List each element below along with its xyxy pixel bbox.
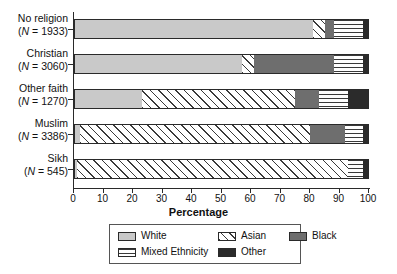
category-label-count: (N = 3060): [18, 60, 68, 73]
bar-segment-asian: [142, 89, 295, 109]
bar-segment-other: [363, 124, 369, 144]
x-axis-tick-label: 70: [274, 193, 285, 205]
x-axis-tick-label: 10: [97, 193, 108, 205]
category-label-name: No religion: [18, 12, 68, 25]
bar-segment-white: [74, 54, 242, 74]
legend-swatch-mixed: [118, 248, 136, 257]
category-label-name: Christian: [18, 47, 68, 60]
x-axis-title: Percentage: [0, 206, 397, 218]
legend-label: Asian: [241, 230, 266, 242]
bar-segment-mixed: [319, 89, 349, 109]
x-axis-tick-label: 90: [333, 193, 344, 205]
bar-segment-other: [348, 89, 369, 109]
x-axis-tick-label: 40: [185, 193, 196, 205]
bar-segment-black: [254, 54, 334, 74]
category-label-name: Muslim: [18, 117, 68, 130]
x-axis-tick-label: 80: [303, 193, 314, 205]
x-axis-tick-label: 30: [156, 193, 167, 205]
bar-segment-asian: [313, 19, 325, 39]
category-axis-labels: No religion(N = 1933)Christian(N = 3060)…: [0, 12, 70, 187]
bar-segment-mixed: [348, 159, 363, 179]
x-axis-line: [73, 188, 370, 189]
bar-segment-black: [295, 89, 319, 109]
bar-segment-white: [74, 19, 313, 39]
legend-label: Other: [241, 246, 266, 258]
legend-item-mixed: Mixed Ethnicity: [118, 246, 208, 258]
bar-segment-black: [325, 19, 334, 39]
category-label: Muslim(N = 3386): [18, 117, 68, 142]
category-label: Sikh(N = 545): [24, 152, 68, 177]
y-axis-tick: [68, 169, 73, 170]
category-label: Other faith(N = 1270): [18, 82, 68, 107]
bar-row: [74, 124, 369, 144]
y-axis-tick: [68, 99, 73, 100]
category-label: No religion(N = 1933): [18, 12, 68, 37]
bar-row: [74, 159, 369, 179]
category-label-count: (N = 3386): [18, 130, 68, 143]
bar-segment-other: [363, 159, 369, 179]
x-axis-tick-label: 0: [70, 193, 76, 205]
category-label-name: Sikh: [24, 152, 68, 165]
category-label-name: Other faith: [18, 82, 68, 95]
category-label-count: (N = 545): [24, 165, 68, 178]
legend-item-black: Black: [289, 230, 336, 242]
bar-row: [74, 89, 369, 109]
bar-segment-asian: [242, 54, 254, 74]
bar-segment-black: [310, 124, 345, 144]
bar-row: [74, 54, 369, 74]
bar-segment-mixed: [334, 54, 364, 74]
legend-item-asian: Asian: [218, 230, 266, 242]
legend-swatch-black: [289, 232, 307, 241]
bar-segment-asian: [77, 159, 348, 179]
legend-label: Mixed Ethnicity: [141, 246, 208, 258]
x-axis-tick-label: 20: [126, 193, 137, 205]
y-axis-tick: [68, 64, 73, 65]
x-axis-tick-label: 100: [360, 193, 377, 205]
bar-segment-asian: [80, 124, 310, 144]
y-axis-tick: [68, 134, 73, 135]
legend-item-other: Other: [218, 246, 266, 258]
bar-segment-mixed: [345, 124, 363, 144]
legend-label: Black: [312, 230, 336, 242]
bar-segment-mixed: [334, 19, 364, 39]
stacked-bar-chart: No religion(N = 1933)Christian(N = 3060)…: [0, 0, 397, 274]
plot-area: [74, 12, 369, 187]
legend-swatch-other: [218, 248, 236, 257]
x-axis-tick-label: 60: [244, 193, 255, 205]
legend-label: White: [141, 230, 167, 242]
bar-segment-white: [74, 89, 142, 109]
category-label: Christian(N = 3060): [18, 47, 68, 72]
legend-item-white: White: [118, 230, 167, 242]
y-axis-tick: [68, 29, 73, 30]
x-axis-tick-label: 50: [215, 193, 226, 205]
category-label-count: (N = 1270): [18, 95, 68, 108]
legend-swatch-white: [118, 232, 136, 241]
category-label-count: (N = 1933): [18, 25, 68, 38]
y-axis-line: [73, 12, 74, 188]
bar-row: [74, 19, 369, 39]
bar-segment-other: [363, 54, 369, 74]
legend: WhiteMixed EthnicityAsianOtherBlack: [109, 224, 301, 264]
bar-segment-other: [363, 19, 369, 39]
legend-swatch-asian: [218, 232, 236, 241]
